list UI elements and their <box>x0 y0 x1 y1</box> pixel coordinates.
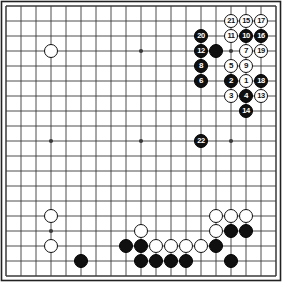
move-number-label: 8 <box>199 62 203 70</box>
move-number-label: 13 <box>257 92 264 100</box>
move-number-label: 17 <box>257 17 264 25</box>
move-number-label: 10 <box>242 32 249 40</box>
move-number-label: 16 <box>257 32 264 40</box>
move-number-label: 1 <box>244 77 248 85</box>
move-number-label: 3 <box>229 92 233 100</box>
move-number-label: 6 <box>199 77 203 85</box>
move-number-label: 15 <box>242 17 249 25</box>
move-number-label: 12 <box>197 47 204 55</box>
move-number-label: 9 <box>244 62 248 70</box>
go-board-diagram: 12345678910111213141516171819202122 <box>0 0 288 301</box>
move-number-label: 2 <box>229 77 233 85</box>
move-number-label: 19 <box>257 47 264 55</box>
move-number-label: 11 <box>228 32 235 40</box>
move-number-label: 5 <box>229 62 233 70</box>
move-number-label: 22 <box>197 137 204 145</box>
move-number-label: 20 <box>197 32 204 40</box>
move-number-label: 14 <box>242 107 249 115</box>
move-number-label: 18 <box>257 77 264 85</box>
move-number-label: 21 <box>227 17 234 25</box>
move-number-label: 7 <box>244 47 248 55</box>
move-number-label: 4 <box>244 92 248 100</box>
